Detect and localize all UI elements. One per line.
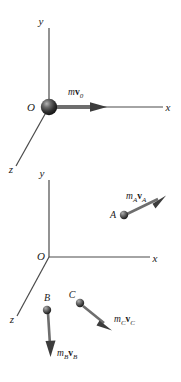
momentum-vector-head-origin	[90, 102, 107, 112]
y-axis-label-bottom: y	[39, 167, 45, 179]
particle-a-group: A mAvA	[109, 191, 166, 220]
momentum-label-c: mCvC	[114, 314, 135, 327]
momentum-label-origin: mv0	[68, 87, 84, 100]
physics-figure: y x z O mv0 y x	[0, 0, 181, 382]
single-particle-diagram: y x z O mv0	[8, 15, 171, 175]
momentum-vector-head-b	[46, 341, 56, 358]
momentum-vector-shaft-b	[48, 313, 50, 345]
x-axis-label-bottom: x	[152, 252, 158, 264]
particle-b-sphere	[43, 306, 51, 314]
origin-label-bottom: O	[37, 250, 45, 262]
particle-a-label: A	[109, 209, 117, 220]
three-particle-diagram: y x z O A mAvA C mCvC	[9, 167, 166, 361]
momentum-label-origin-sub: 0	[80, 92, 84, 100]
particle-c-group: C mCvC	[69, 289, 136, 331]
figure-canvas: y x z O mv0 y x	[0, 0, 181, 382]
particle-a-sphere	[120, 211, 128, 219]
momentum-label-c-v-sub: C	[130, 319, 135, 327]
momentum-vector-shaft-c	[83, 306, 104, 323]
particle-c-sphere	[76, 299, 84, 307]
particle-b-group: B mBvB	[43, 292, 78, 361]
origin-particle-sphere	[41, 99, 57, 115]
particle-b-label: B	[44, 292, 50, 303]
momentum-label-a-v-sub: A	[141, 196, 147, 204]
origin-label-top: O	[27, 101, 35, 113]
momentum-label-b-v-sub: B	[73, 353, 78, 361]
z-axis-line-top	[16, 107, 49, 166]
z-axis-label-top: z	[8, 163, 14, 175]
momentum-label-b: mBvB	[57, 348, 78, 361]
x-axis-label-top: x	[165, 101, 171, 113]
momentum-label-a: mAvA	[126, 191, 147, 204]
particle-c-label: C	[69, 289, 76, 300]
y-axis-label-top: y	[38, 15, 44, 27]
z-axis-label-bottom: z	[9, 313, 15, 325]
momentum-vector-arrow-origin	[53, 102, 107, 112]
